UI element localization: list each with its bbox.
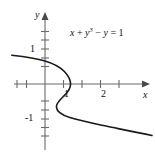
equation-op-plus: + bbox=[74, 27, 85, 38]
y-tick-label-1: 1 bbox=[30, 44, 35, 54]
x-axis-label: x bbox=[143, 90, 147, 100]
plot-canvas bbox=[0, 0, 155, 159]
equation-annotation: x + y3 − y = 1 bbox=[70, 27, 124, 38]
equation-rhs-one: 1 bbox=[119, 27, 124, 38]
x-tick-label-2: 2 bbox=[101, 89, 106, 99]
y-axis-label: y bbox=[35, 10, 39, 20]
y-tick-label-minus-1: -1 bbox=[25, 113, 33, 123]
equation-op-equals: = bbox=[108, 27, 119, 38]
y-axis bbox=[42, 12, 49, 150]
curve-x-plus-y-cubed-minus-y bbox=[12, 55, 152, 135]
graph-figure: x y 1 2 1 -1 x + y3 − y = 1 bbox=[0, 0, 155, 159]
x-axis-arrow bbox=[142, 81, 150, 88]
x-tick-label-1: 1 bbox=[64, 89, 69, 99]
equation-op-minus: − bbox=[93, 27, 104, 38]
y-axis-arrow bbox=[42, 12, 49, 20]
